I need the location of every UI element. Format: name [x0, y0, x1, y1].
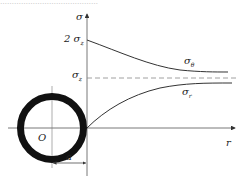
stress-distribution-diagram [0, 0, 244, 177]
sigma-axis-label: σ [76, 12, 83, 22]
origin-label: O [38, 133, 46, 143]
tick-sigma-z: σz [72, 70, 82, 84]
sigma-theta-curve [87, 40, 228, 72]
dimension-label-a: a [66, 152, 72, 162]
tick-2-sigma-z: 2 σz [64, 34, 84, 48]
sigma-r-curve [87, 83, 232, 128]
sigma-r-label: σr [182, 87, 192, 101]
r-axis-label: r [226, 138, 231, 148]
sigma-theta-label: σθ [184, 56, 194, 70]
